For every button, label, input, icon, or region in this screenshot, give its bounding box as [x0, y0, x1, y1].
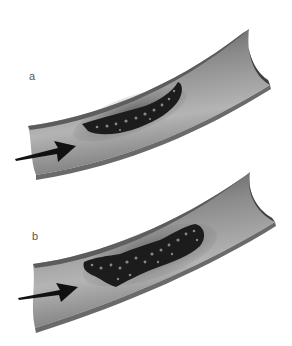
vessel-b — [33, 172, 276, 333]
vessel-a — [28, 29, 271, 180]
vessel-thrombus-figure: a b — [0, 0, 292, 346]
illustration — [0, 0, 292, 346]
